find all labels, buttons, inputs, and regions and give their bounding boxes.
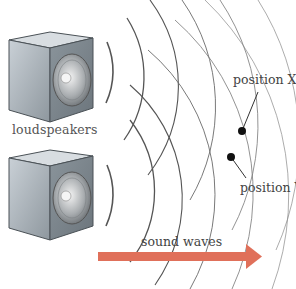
position-x-dot	[238, 127, 246, 135]
position-x-label: position X	[233, 72, 296, 87]
lower-loudspeaker-icon	[9, 150, 93, 240]
position-y-label: position Y	[240, 180, 296, 195]
position-y-dot	[227, 153, 235, 161]
upper-loudspeaker-icon	[9, 32, 93, 122]
diagram-canvas: loudspeakers position X position Y sound…	[0, 0, 296, 289]
sound-waves-label: sound waves	[141, 234, 222, 249]
position-x-pointer	[242, 92, 258, 131]
loudspeakers-label: loudspeakers	[12, 122, 97, 137]
